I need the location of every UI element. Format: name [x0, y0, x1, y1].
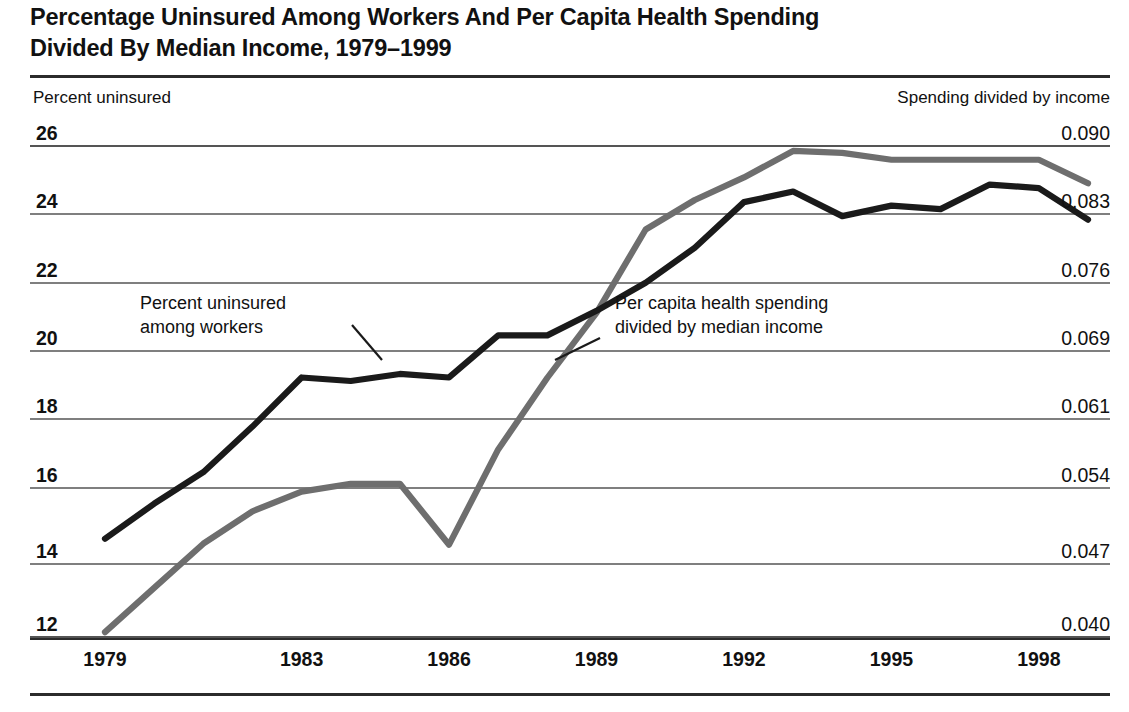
annotation-per-capita-spending-line-1: Per capita health spending: [615, 292, 828, 316]
y-axis-right-tick-label: 0.083: [1061, 190, 1110, 213]
annotation-per-capita-spending-line-2: divided by median income: [615, 316, 828, 340]
annotation-percent-uninsured-line-1: Percent uninsured: [140, 292, 286, 316]
y-axis-left-tick-label: 12: [36, 613, 58, 636]
right-axis-caption: Spending divided by income: [897, 88, 1110, 108]
bottom-border-rule: [30, 693, 1110, 696]
y-axis-right-tick-label: 0.069: [1061, 327, 1110, 350]
x-axis-tick-label: 1992: [722, 648, 765, 671]
plot-svg: [30, 120, 1110, 640]
left-axis-caption: Percent uninsured: [33, 88, 171, 108]
y-axis-right-tick-label: 0.040: [1061, 613, 1110, 636]
y-axis-left-tick-label: 16: [36, 464, 58, 487]
annotation-percent-uninsured-line-2: among workers: [140, 316, 286, 340]
x-axis-tick-label: 1998: [1017, 648, 1060, 671]
chart-figure: Percentage Uninsured Among Workers And P…: [0, 0, 1129, 712]
y-axis-right-tick-label: 0.047: [1061, 540, 1110, 563]
plot-area: [30, 120, 1110, 640]
series-line-uninsured: [105, 185, 1088, 539]
series-polyline: [105, 185, 1088, 539]
y-axis-left-tick-label: 20: [36, 327, 58, 350]
y-axis-right-tick-label: 0.054: [1061, 464, 1110, 487]
x-axis-tick-label: 1979: [83, 648, 126, 671]
chart-title-line-2: Divided By Median Income, 1979–1999: [30, 33, 1030, 64]
title-divider-rule: [30, 75, 1110, 78]
y-axis-right-tick-label: 0.076: [1061, 259, 1110, 282]
y-axis-left-tick-label: 18: [36, 395, 58, 418]
x-axis-tick-label: 1983: [280, 648, 323, 671]
chart-title-line-1: Percentage Uninsured Among Workers And P…: [30, 2, 1030, 33]
annotation-per-capita-spending: Per capita health spending divided by me…: [615, 292, 828, 340]
leader-line-black: [352, 325, 382, 360]
y-axis-left-tick-label: 26: [36, 122, 58, 145]
y-axis-right-tick-label: 0.061: [1061, 395, 1110, 418]
y-axis-left-tick-label: 22: [36, 259, 58, 282]
x-axis-tick-label: 1989: [575, 648, 618, 671]
y-axis-left-tick-label: 24: [36, 190, 58, 213]
y-axis-right-tick-label: 0.090: [1061, 122, 1110, 145]
y-axis-left-tick-label: 14: [36, 540, 58, 563]
series-line-spending: [105, 151, 1088, 632]
x-axis-tick-label: 1995: [870, 648, 913, 671]
annotation-percent-uninsured: Percent uninsured among workers: [140, 292, 286, 340]
x-axis-tick-label: 1986: [427, 648, 470, 671]
series-polyline: [105, 151, 1088, 632]
chart-title: Percentage Uninsured Among Workers And P…: [30, 2, 1030, 65]
gridlines-group: [30, 146, 1110, 637]
